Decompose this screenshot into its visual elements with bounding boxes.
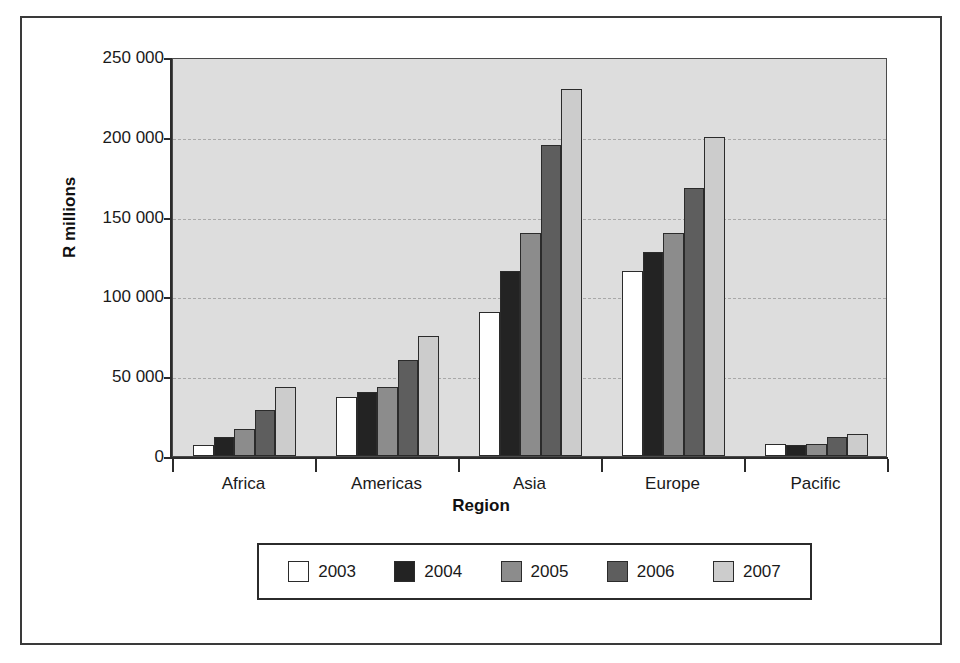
bar-pacific-2007: [847, 434, 868, 456]
x-axis-tick: [315, 459, 317, 472]
y-axis-tick-label: 50 000: [112, 367, 164, 387]
bar-asia-2007: [561, 89, 582, 456]
bar-africa-2005: [234, 429, 255, 456]
bar-chart: 050 000100 000150 000200 000250 000 Afri…: [22, 18, 940, 643]
x-axis-tick: [458, 459, 460, 472]
x-axis-label-americas: Americas: [351, 474, 422, 494]
y-axis-tick-label: 200 000: [103, 128, 164, 148]
legend-label-2007: 2007: [743, 562, 781, 582]
legend-swatch-2003: [288, 561, 309, 582]
figure-frame: 050 000100 000150 000200 000250 000 Afri…: [20, 16, 942, 645]
bar-asia-2003: [479, 312, 500, 456]
legend-item-2007: 2007: [713, 561, 781, 582]
bar-europe-2006: [684, 188, 705, 456]
legend-label-2003: 2003: [318, 562, 356, 582]
y-tick-mark: [164, 138, 172, 140]
x-axis-title: Region: [22, 496, 940, 516]
x-axis-tick: [601, 459, 603, 472]
y-axis-tick-label: 250 000: [103, 48, 164, 68]
plot-area: [172, 58, 887, 457]
x-axis-tick: [744, 459, 746, 472]
bar-americas-2005: [377, 387, 398, 456]
legend-swatch-2006: [607, 561, 628, 582]
bar-europe-2005: [663, 233, 684, 456]
y-axis-title: R millions: [60, 177, 80, 258]
bar-pacific-2005: [806, 444, 827, 456]
x-axis-tick: [172, 459, 174, 472]
bar-americas-2004: [357, 392, 378, 456]
y-tick-mark: [164, 457, 172, 459]
y-axis-tick-label: 0: [155, 447, 164, 467]
y-tick-mark: [164, 377, 172, 379]
bar-pacific-2003: [765, 444, 786, 456]
bar-pacific-2004: [786, 445, 807, 456]
y-axis: [170, 58, 172, 459]
legend-label-2006: 2006: [637, 562, 675, 582]
bar-africa-2004: [214, 437, 235, 456]
legend-label-2005: 2005: [531, 562, 569, 582]
y-axis-tick-label: 100 000: [103, 287, 164, 307]
bar-africa-2006: [255, 410, 276, 456]
bars-layer: [173, 59, 886, 456]
bar-europe-2004: [643, 252, 664, 456]
bar-group-asia: [479, 59, 582, 456]
bar-asia-2005: [520, 233, 541, 456]
bar-asia-2004: [500, 271, 521, 456]
legend-label-2004: 2004: [424, 562, 462, 582]
y-tick-mark: [164, 218, 172, 220]
legend: 20032004200520062007: [257, 543, 812, 600]
bar-group-africa: [193, 59, 296, 456]
bar-group-europe: [622, 59, 725, 456]
legend-item-2003: 2003: [288, 561, 356, 582]
y-tick-mark: [164, 58, 172, 60]
bar-americas-2006: [398, 360, 419, 456]
bar-americas-2007: [418, 336, 439, 456]
bar-asia-2006: [541, 145, 562, 456]
bar-africa-2003: [193, 445, 214, 456]
bar-europe-2003: [622, 271, 643, 456]
y-axis-tick-label: 150 000: [103, 208, 164, 228]
legend-item-2006: 2006: [607, 561, 675, 582]
bar-group-pacific: [765, 59, 868, 456]
bar-americas-2003: [336, 397, 357, 456]
bar-europe-2007: [704, 137, 725, 456]
legend-item-2004: 2004: [394, 561, 462, 582]
bar-pacific-2006: [827, 437, 848, 456]
bar-africa-2007: [275, 387, 296, 456]
legend-swatch-2005: [501, 561, 522, 582]
legend-swatch-2007: [713, 561, 734, 582]
legend-swatch-2004: [394, 561, 415, 582]
legend-item-2005: 2005: [501, 561, 569, 582]
x-axis-label-africa: Africa: [222, 474, 265, 494]
y-tick-mark: [164, 297, 172, 299]
x-axis-label-europe: Europe: [645, 474, 700, 494]
x-axis-tick: [887, 459, 889, 472]
x-axis-label-asia: Asia: [513, 474, 546, 494]
x-axis: [172, 457, 888, 459]
bar-group-americas: [336, 59, 439, 456]
x-axis-label-pacific: Pacific: [790, 474, 840, 494]
